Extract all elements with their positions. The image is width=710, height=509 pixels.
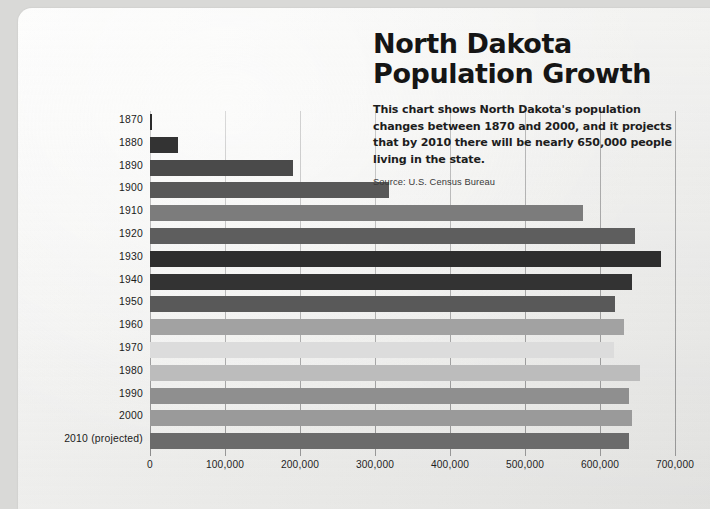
bar-row: 2000 <box>150 407 675 430</box>
x-axis: 0100,000200,000300,000400,000500,000600,… <box>150 459 675 479</box>
bar-1900 <box>150 182 389 198</box>
bar-row: 2010 (projected) <box>150 430 675 453</box>
x-axis-tick-100000: 100,000 <box>206 459 244 470</box>
y-axis-label-1960: 1960 <box>119 317 143 333</box>
bar-1920 <box>150 228 635 244</box>
bar-1970 <box>150 342 614 358</box>
gridline-700000 <box>675 111 676 456</box>
x-axis-tick-700000: 700,000 <box>656 459 694 470</box>
bar-1950 <box>150 296 615 312</box>
bar-1930 <box>150 251 661 267</box>
chart-header: North Dakota Population Growth This char… <box>373 29 675 187</box>
bar-row: 1910 <box>150 202 675 225</box>
y-axis-label-1950: 1950 <box>119 294 143 310</box>
bar-row: 1970 <box>150 339 675 362</box>
y-axis-label-1880: 1880 <box>119 135 143 151</box>
bar-1990 <box>150 388 629 404</box>
bar-1980 <box>150 365 640 381</box>
bar-row: 1980 <box>150 362 675 385</box>
y-axis-label-1870: 1870 <box>119 112 143 128</box>
title-line-2: Population Growth <box>373 59 675 89</box>
chart-source: Source: U.S. Census Bureau <box>373 177 675 187</box>
y-axis-label-1910: 1910 <box>119 203 143 219</box>
y-axis-label-1940: 1940 <box>119 272 143 288</box>
y-axis-label-1890: 1890 <box>119 158 143 174</box>
y-axis-label-2000: 2000 <box>119 408 143 424</box>
bar-1890 <box>150 160 293 176</box>
chart-description: This chart shows North Dakota's populati… <box>373 102 675 168</box>
bar-row: 1920 <box>150 225 675 248</box>
x-axis-tick-0: 0 <box>147 459 153 470</box>
bar-1910 <box>150 205 583 221</box>
bar-2000 <box>150 410 632 426</box>
y-axis-label-2010-projected-: 2010 (projected) <box>64 431 143 447</box>
x-axis-tick-500000: 500,000 <box>506 459 544 470</box>
poster-sheet: North Dakota Population Growth This char… <box>18 8 710 509</box>
x-axis-tick-200000: 200,000 <box>281 459 319 470</box>
bar-1880 <box>150 137 178 153</box>
bar-row: 1940 <box>150 271 675 294</box>
x-axis-tick-400000: 400,000 <box>431 459 469 470</box>
y-axis-label-1990: 1990 <box>119 386 143 402</box>
bar-1940 <box>150 274 632 290</box>
x-axis-tick-300000: 300,000 <box>356 459 394 470</box>
y-axis-label-1930: 1930 <box>119 249 143 265</box>
title-line-1: North Dakota <box>373 29 675 59</box>
x-axis-tick-600000: 600,000 <box>581 459 619 470</box>
y-axis-label-1900: 1900 <box>119 180 143 196</box>
bar-row: 1930 <box>150 248 675 271</box>
bar-row: 1990 <box>150 385 675 408</box>
bar-2010-projected- <box>150 433 629 449</box>
y-axis-label-1970: 1970 <box>119 340 143 356</box>
y-axis-label-1920: 1920 <box>119 226 143 242</box>
y-axis-label-1980: 1980 <box>119 363 143 379</box>
bar-row: 1950 <box>150 293 675 316</box>
bar-1870 <box>150 114 152 130</box>
bar-row: 1960 <box>150 316 675 339</box>
page-title: North Dakota Population Growth <box>373 29 675 89</box>
bar-1960 <box>150 319 624 335</box>
